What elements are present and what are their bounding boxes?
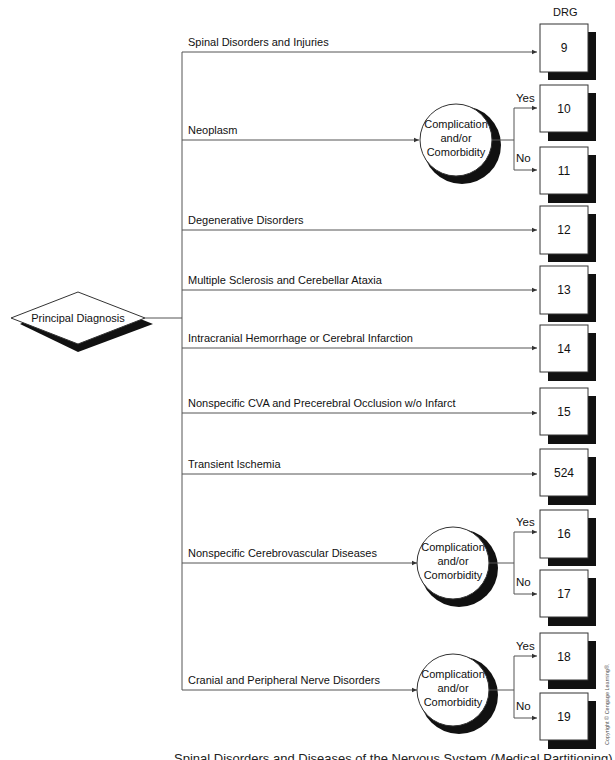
- yes-label: Yes: [516, 640, 535, 652]
- svg-text:Comorbidity: Comorbidity: [424, 696, 483, 708]
- drg-box-17: 17: [540, 570, 596, 626]
- svg-text:16: 16: [557, 527, 571, 541]
- svg-text:Complication: Complication: [424, 118, 488, 130]
- complication-comorbidity-node: Complication and/or Comorbidity: [420, 104, 501, 184]
- svg-text:Comorbidity: Comorbidity: [427, 146, 486, 158]
- caption-text: Spinal Disorders and Diseases of the Ner…: [174, 751, 613, 760]
- copyright-notice: Copyright © Cengage Learning®.: [604, 664, 610, 746]
- branch-spinal-disorders: Spinal Disorders and Injuries 9: [182, 24, 596, 80]
- svg-text:and/or: and/or: [437, 682, 469, 694]
- yes-label: Yes: [516, 92, 535, 104]
- svg-text:Complication: Complication: [421, 541, 485, 553]
- figure-caption: Spinal Disorders and Diseases of the Ner…: [0, 744, 615, 760]
- principal-diagnosis-label: Principal Diagnosis: [31, 312, 125, 324]
- svg-text:Comorbidity: Comorbidity: [424, 569, 483, 581]
- drg-box-11: 11: [540, 147, 596, 203]
- drg-box-10: 10: [540, 85, 596, 141]
- svg-text:14: 14: [557, 342, 571, 356]
- branch-label: Spinal Disorders and Injuries: [188, 36, 329, 48]
- branch-cranial-peripheral-nerve: Cranial and Peripheral Nerve Disorders C…: [182, 633, 596, 749]
- svg-text:Complication: Complication: [421, 668, 485, 680]
- branch-nonspecific-cva: Nonspecific CVA and Precerebral Occlusio…: [182, 388, 596, 444]
- branch-label: Neoplasm: [188, 124, 238, 136]
- drg-box-16: 16: [540, 510, 596, 566]
- no-label: No: [516, 700, 531, 712]
- yes-label: Yes: [516, 516, 535, 528]
- drg-box-14: 14: [540, 325, 596, 381]
- svg-text:18: 18: [557, 650, 571, 664]
- branch-label: Cranial and Peripheral Nerve Disorders: [188, 674, 380, 686]
- drg-box-19: 19: [540, 693, 596, 749]
- no-label: No: [516, 152, 531, 164]
- svg-text:9: 9: [561, 41, 568, 55]
- branch-label: Multiple Sclerosis and Cerebellar Ataxia: [188, 274, 383, 286]
- branch-degenerative-disorders: Degenerative Disorders 12: [182, 206, 596, 262]
- drg-box-9: 9: [540, 24, 596, 80]
- branch-label: Nonspecific CVA and Precerebral Occlusio…: [188, 397, 456, 409]
- drg-box-524: 524: [540, 449, 596, 505]
- svg-text:13: 13: [557, 283, 571, 297]
- drg-box-13: 13: [540, 266, 596, 322]
- svg-text:17: 17: [557, 587, 571, 601]
- svg-text:and/or: and/or: [437, 555, 469, 567]
- branch-label: Transient Ischemia: [188, 458, 281, 470]
- complication-comorbidity-node: Complication and/or Comorbidity: [417, 654, 498, 734]
- branch-label: Degenerative Disorders: [188, 214, 304, 226]
- svg-text:10: 10: [557, 102, 571, 116]
- svg-text:524: 524: [554, 466, 574, 480]
- drg-column-header: DRG: [553, 6, 577, 18]
- branch-label: Intracranial Hemorrhage or Cerebral Infa…: [188, 332, 413, 344]
- branch-neoplasm: Neoplasm Complication and/or Comorbidity…: [182, 85, 596, 203]
- branch-label: Nonspecific Cerebrovascular Diseases: [188, 547, 377, 559]
- complication-comorbidity-node: Complication and/or Comorbidity: [417, 527, 498, 607]
- svg-text:15: 15: [557, 405, 571, 419]
- principal-diagnosis-node: Principal Diagnosis: [11, 292, 153, 352]
- drg-box-15: 15: [540, 388, 596, 444]
- svg-text:19: 19: [557, 710, 571, 724]
- branch-nonspecific-cerebrovascular: Nonspecific Cerebrovascular Diseases Com…: [182, 510, 596, 626]
- svg-text:12: 12: [557, 223, 571, 237]
- drg-box-18: 18: [540, 633, 596, 689]
- branch-transient-ischemia: Transient Ischemia 524: [182, 449, 596, 505]
- branch-intracranial-hemorrhage: Intracranial Hemorrhage or Cerebral Infa…: [182, 325, 596, 381]
- drg-box-12: 12: [540, 206, 596, 262]
- no-label: No: [516, 576, 531, 588]
- branch-multiple-sclerosis: Multiple Sclerosis and Cerebellar Ataxia…: [182, 266, 596, 322]
- svg-text:and/or: and/or: [440, 132, 472, 144]
- svg-text:11: 11: [558, 164, 571, 178]
